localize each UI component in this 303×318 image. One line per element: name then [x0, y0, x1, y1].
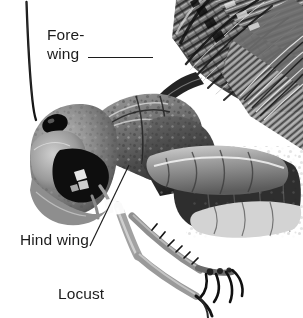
locust-photograph: [0, 0, 303, 318]
label-forewing: Fore-wing: [47, 26, 85, 63]
locust-figure: Fore-wing Hind wing Locust: [0, 0, 303, 318]
label-hindwing: Hind wing: [20, 231, 89, 250]
label-forewing-line1: Fore-: [47, 26, 85, 43]
figure-caption: Locust: [58, 285, 104, 304]
locust-photo-svg: [0, 0, 303, 318]
label-forewing-line2: wing: [47, 45, 79, 62]
